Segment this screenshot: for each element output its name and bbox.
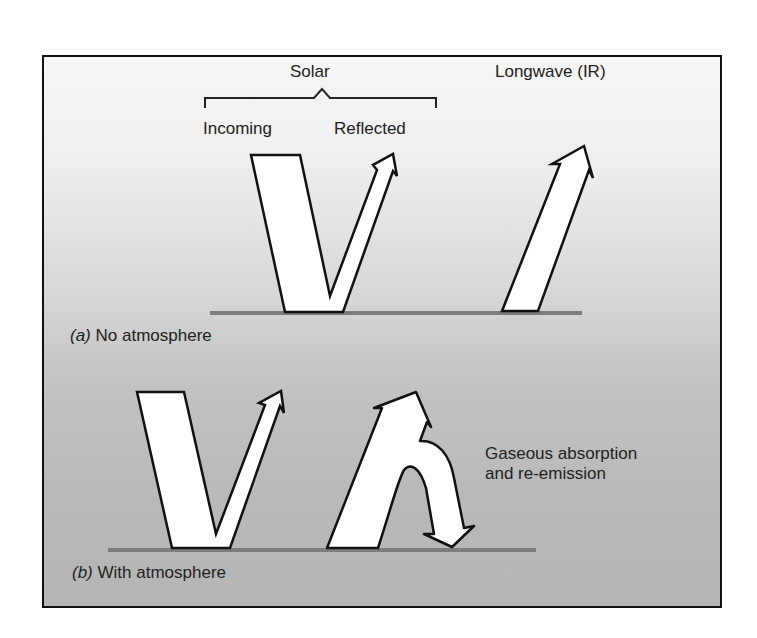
caption-a-text: No atmosphere: [96, 326, 212, 345]
caption-a: (a) No atmosphere: [70, 327, 212, 344]
diagram-artwork: [0, 0, 757, 638]
caption-b-letter: (b): [72, 563, 93, 582]
caption-b: (b) With atmosphere: [72, 564, 226, 581]
reflected-label: Reflected: [334, 120, 406, 137]
longwave-arrow-a: [502, 146, 593, 311]
solar-arrow-a: [251, 154, 397, 312]
absorption-label-line2: and re-emission: [485, 465, 606, 482]
absorption-label-line1: Gaseous absorption: [485, 445, 637, 462]
longwave-reemission-arrow-b: [327, 392, 474, 548]
caption-b-text: With atmosphere: [98, 563, 227, 582]
solar-arrow-b: [137, 391, 284, 548]
incoming-label: Incoming: [203, 120, 272, 137]
solar-label: Solar: [290, 63, 330, 80]
solar-bracket: [205, 89, 436, 108]
caption-a-letter: (a): [70, 326, 91, 345]
longwave-label: Longwave (IR): [495, 63, 606, 80]
